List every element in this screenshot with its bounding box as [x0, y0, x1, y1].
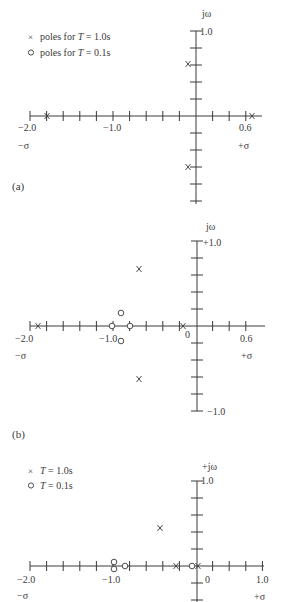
axis-label: +σ	[241, 350, 253, 361]
panel-label: (b)	[12, 428, 25, 441]
axis-label: −σ	[15, 350, 27, 361]
pole-o-marker	[111, 566, 117, 572]
legend-item: ×poles for T = 1.0s	[28, 31, 110, 42]
axis-label: 1.0	[200, 26, 213, 37]
axis-label: jω	[201, 8, 212, 19]
axis-label: −2.0	[17, 574, 35, 585]
axis-label: 1.0	[256, 574, 269, 585]
pole-x-marker	[137, 376, 142, 382]
pole-o-marker	[127, 323, 133, 329]
axis-label: 1.0	[201, 475, 214, 486]
pole-x-marker	[186, 164, 191, 170]
legend-item: ×T = 1.0s	[28, 465, 73, 476]
pole-x-marker	[137, 266, 142, 272]
circle-marker-icon	[28, 50, 33, 55]
axis-label: −1.0	[99, 333, 117, 344]
axis-label: 0	[205, 574, 210, 585]
legend-text: T = 0.1s	[40, 480, 73, 491]
axis-label: −1.0	[102, 574, 120, 585]
x-marker-icon: ×	[28, 466, 33, 476]
axis-label: jω	[205, 221, 216, 232]
axis-label: −σ	[17, 590, 29, 601]
s-plane-plots: jω1.0−2.0−1.00.6−σ+σ(a)×poles for T = 1.…	[0, 0, 284, 602]
legend-item: T = 0.1s	[28, 480, 72, 491]
circle-marker-icon	[28, 483, 33, 488]
x-marker-icon: ×	[28, 32, 33, 42]
axis-label: 0.6	[239, 122, 252, 133]
axis-label: 0	[185, 329, 190, 340]
axis-label: +1.0	[203, 237, 221, 248]
pole-o-marker	[109, 323, 115, 329]
legend-text: poles for T = 0.1s	[40, 47, 110, 58]
pole-o-marker	[118, 338, 124, 344]
legend-item: poles for T = 0.1s	[28, 47, 110, 58]
axis-label: −1.0	[207, 406, 225, 417]
pole-o-marker	[189, 563, 195, 569]
axis-label: −2.0	[18, 122, 36, 133]
pole-o-marker	[118, 310, 124, 316]
axis-label: −σ	[18, 140, 30, 151]
panel-b: jω+1.0−1.0−2.0−1.000.6−σ+σ(b)	[12, 221, 265, 441]
pole-zero-figure: jω1.0−2.0−1.00.6−σ+σ(a)×poles for T = 1.…	[0, 0, 284, 602]
pole-x-marker	[186, 61, 191, 67]
panel-label: (a)	[12, 180, 25, 193]
panel-c: +jω1.0−2.0−1.001.0−σ+σ×T = 1.0sT = 0.1s	[17, 461, 269, 602]
axis-label: +σ	[238, 140, 250, 151]
legend-text: poles for T = 1.0s	[40, 31, 110, 42]
panel-a: jω1.0−2.0−1.00.6−σ+σ(a)×poles for T = 1.…	[12, 8, 262, 204]
axis-label: −2.0	[15, 333, 33, 344]
pole-x-marker	[158, 525, 163, 531]
axis-label: +jω	[202, 461, 217, 472]
axis-label: 0.6	[240, 333, 253, 344]
pole-o-marker	[122, 563, 128, 569]
legend-text: T = 1.0s	[40, 465, 73, 476]
pole-o-marker	[111, 559, 117, 565]
axis-label: +σ	[254, 591, 266, 602]
axis-label: −1.0	[103, 122, 121, 133]
